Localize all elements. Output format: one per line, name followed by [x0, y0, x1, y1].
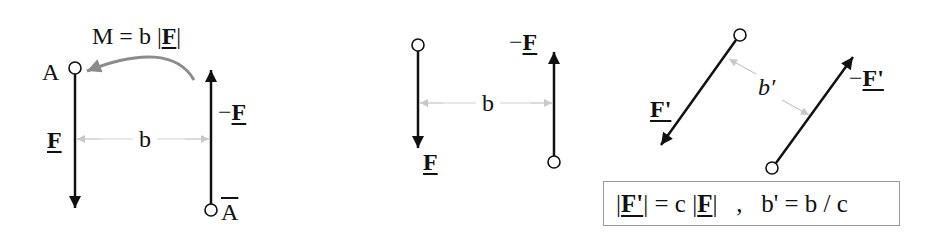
moment-arrow	[87, 57, 194, 80]
force-arrow-F-prime	[661, 40, 736, 145]
force-symbol: F'	[863, 65, 884, 91]
force-arrow-neg-F-prime	[776, 57, 853, 163]
force-F-prime-label: F'	[650, 97, 671, 121]
moment-text: M = b |	[92, 23, 162, 49]
separator: ,	[718, 190, 762, 218]
distance-b-label: b	[482, 91, 494, 115]
neg-force-origin-marker	[548, 156, 560, 168]
moment-label: M = b |F|	[92, 24, 181, 48]
neg-force-F-label: −F	[509, 30, 537, 54]
moment-abs-close: |	[176, 23, 181, 49]
force-symbol: F	[523, 29, 538, 55]
panel-scaled-couple	[661, 29, 853, 174]
force-prime-symbol: F'	[621, 190, 643, 218]
force-prime-origin-marker	[734, 29, 746, 41]
distance-b-prime-label: b′	[758, 75, 775, 99]
point-A-bar-label: A	[221, 200, 238, 224]
minus-sign: −	[509, 29, 523, 55]
force-symbol: F	[232, 99, 247, 125]
moment-force-symbol: F	[162, 23, 177, 49]
equation-middle: | = c |	[643, 190, 697, 218]
point-A-bar-marker	[205, 204, 217, 216]
force-F-label: F	[47, 128, 62, 152]
distance-b-prime-upper	[729, 59, 756, 74]
neg-force-F-prime-label: −F'	[849, 66, 884, 90]
distance-equation: b' = b / c	[761, 190, 848, 218]
point-A-marker	[69, 62, 81, 74]
point-A-label: A	[42, 60, 59, 84]
neg-force-F-label: −F	[218, 100, 246, 124]
minus-sign: −	[849, 65, 863, 91]
force-F-label: F	[423, 150, 438, 174]
force-symbol: F	[697, 190, 712, 218]
neg-force-prime-origin-marker	[766, 162, 778, 174]
distance-b-label: b	[139, 127, 151, 151]
minus-sign: −	[218, 99, 232, 125]
force-origin-marker	[412, 39, 424, 51]
equation-box: |F'| = c |F| , b' = b / c	[603, 181, 900, 226]
distance-b-prime-lower	[782, 100, 809, 115]
